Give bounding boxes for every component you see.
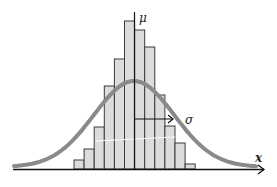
histogram-bar [84, 149, 94, 169]
histogram-bar [175, 143, 185, 169]
histogram-bar [135, 30, 145, 169]
mu-label: μ [139, 11, 147, 25]
histogram-bar [114, 59, 124, 169]
histogram-bar [94, 127, 104, 169]
x-axis-label: x [254, 151, 263, 165]
histogram-chart: μ σ x [0, 0, 277, 187]
histogram-bar [74, 160, 84, 169]
sigma-label: σ [185, 113, 194, 127]
histogram-bar [185, 164, 195, 169]
histogram-bar [155, 95, 165, 169]
histogram-bar [165, 126, 175, 169]
histogram-bar [125, 21, 135, 169]
histogram-bar [145, 47, 155, 169]
